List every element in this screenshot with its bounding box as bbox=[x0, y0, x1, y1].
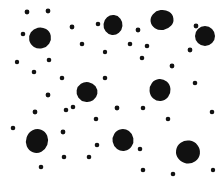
small-dot bbox=[103, 50, 107, 54]
small-dot bbox=[140, 56, 145, 61]
small-dot bbox=[47, 58, 52, 63]
small-dot bbox=[33, 110, 38, 115]
small-dot bbox=[46, 9, 51, 14]
dot-pattern-canvas bbox=[0, 0, 218, 180]
small-dot bbox=[39, 165, 44, 170]
small-dot bbox=[171, 172, 176, 177]
large-dot bbox=[195, 26, 215, 46]
small-dot bbox=[80, 42, 85, 47]
small-dot bbox=[115, 106, 120, 111]
small-dot bbox=[61, 130, 66, 135]
small-dot bbox=[64, 108, 69, 113]
small-dot bbox=[145, 44, 150, 49]
small-dot bbox=[141, 106, 146, 111]
small-dot bbox=[60, 76, 65, 81]
small-dot bbox=[210, 110, 215, 115]
small-dot bbox=[170, 64, 175, 69]
small-dot bbox=[71, 105, 76, 110]
small-dot bbox=[96, 22, 101, 27]
small-dot bbox=[188, 48, 193, 53]
small-dot bbox=[46, 93, 51, 98]
small-dot bbox=[194, 24, 199, 29]
small-dot bbox=[166, 117, 171, 122]
small-dot bbox=[95, 143, 100, 148]
small-dot bbox=[128, 42, 133, 47]
small-dot bbox=[211, 168, 215, 172]
small-dot bbox=[141, 168, 146, 173]
small-dot bbox=[25, 10, 30, 15]
small-dot bbox=[21, 32, 26, 37]
small-dot bbox=[103, 76, 108, 81]
small-dot bbox=[62, 155, 67, 160]
small-dot bbox=[32, 70, 37, 75]
small-dot bbox=[136, 28, 141, 33]
small-dot bbox=[11, 126, 16, 131]
small-dot bbox=[94, 117, 99, 122]
small-dot bbox=[87, 155, 92, 160]
dot-pattern-svg bbox=[0, 0, 218, 180]
small-dot bbox=[15, 60, 19, 64]
small-dot bbox=[138, 147, 143, 152]
small-dot bbox=[193, 81, 198, 86]
small-dot bbox=[70, 25, 75, 30]
